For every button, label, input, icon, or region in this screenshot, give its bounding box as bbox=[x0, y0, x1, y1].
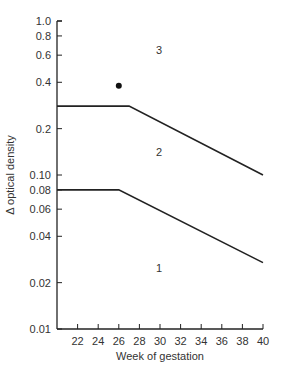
region-labels: 321 bbox=[156, 44, 162, 274]
x-tick-label: 36 bbox=[216, 335, 228, 347]
region-label-3: 3 bbox=[156, 44, 162, 56]
x-tick-label: 40 bbox=[257, 335, 269, 347]
y-tick-label: 0.4 bbox=[36, 76, 51, 88]
y-tick-label: 1.0 bbox=[36, 15, 51, 27]
x-tick-label: 24 bbox=[92, 335, 104, 347]
y-axis-title: Δ optical density bbox=[4, 135, 16, 215]
region-label-1: 1 bbox=[156, 262, 162, 274]
y-tick-label: 0.8 bbox=[36, 30, 51, 42]
chart: 1.00.80.60.40.20.100.080.060.040.020.012… bbox=[0, 0, 281, 374]
y-tick-label: 0.04 bbox=[30, 230, 51, 242]
series-lines bbox=[57, 106, 263, 263]
y-tick-label: 0.10 bbox=[30, 169, 51, 181]
y-tick-label: 0.01 bbox=[30, 323, 51, 335]
tick-marks: 1.00.80.60.40.20.100.080.060.040.020.012… bbox=[30, 15, 270, 347]
boundary-line bbox=[57, 190, 263, 263]
y-tick-label: 0.6 bbox=[36, 49, 51, 61]
y-tick-label: 0.08 bbox=[30, 184, 51, 196]
x-tick-label: 34 bbox=[195, 335, 207, 347]
x-tick-label: 26 bbox=[113, 335, 125, 347]
y-tick-label: 0.02 bbox=[30, 277, 51, 289]
x-tick-label: 28 bbox=[133, 335, 145, 347]
y-tick-label: 0.2 bbox=[36, 123, 51, 135]
region-label-2: 2 bbox=[156, 146, 162, 158]
boundary-line bbox=[57, 106, 263, 175]
axes bbox=[57, 21, 263, 329]
x-tick-label: 32 bbox=[174, 335, 186, 347]
data-point bbox=[116, 83, 122, 89]
x-tick-label: 38 bbox=[236, 335, 248, 347]
data-points bbox=[116, 83, 122, 89]
x-axis-title: Week of gestation bbox=[116, 350, 204, 362]
x-tick-label: 22 bbox=[71, 335, 83, 347]
y-tick-label: 0.06 bbox=[30, 203, 51, 215]
x-tick-label: 30 bbox=[154, 335, 166, 347]
